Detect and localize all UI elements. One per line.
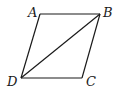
vertex-label-C: C xyxy=(86,74,96,89)
diagonal-BD xyxy=(21,14,100,78)
edges xyxy=(21,14,100,78)
vertex-label-D: D xyxy=(6,74,18,89)
vertex-label-A: A xyxy=(27,5,37,20)
parallelogram-diagram: ABCD xyxy=(0,0,118,91)
vertex-label-B: B xyxy=(102,5,113,20)
edge-BC xyxy=(82,14,100,78)
edge-DA xyxy=(21,14,40,78)
